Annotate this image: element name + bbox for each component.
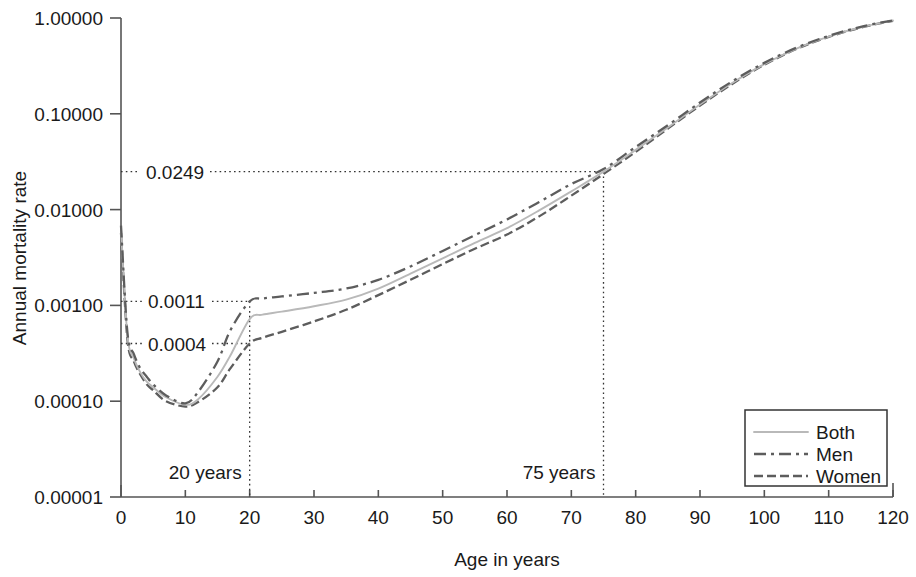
annotation-value-label: 0.0011 [148,291,205,312]
x-axis-tick-labels: 0102030405060708090100110120 [116,507,909,528]
x-tick-label: 100 [748,507,780,528]
y-tick-label: 0.00001 [34,487,103,508]
legend-label-women: Women [816,466,881,487]
y-tick-label: 0.10000 [34,104,103,125]
annotation-value-label: 0.0249 [146,162,204,183]
y-tick-label: 0.00100 [34,295,103,316]
legend-label-both: Both [816,422,855,443]
x-tick-label: 40 [368,507,389,528]
legend-label-men: Men [816,444,853,465]
x-tick-label: 0 [116,507,127,528]
x-tick-label: 20 [239,507,260,528]
series-line-both [121,21,893,405]
y-tick-label: 0.00010 [34,391,103,412]
chart-canvas: 1.000000.100000.010000.001000.000100.000… [0,0,916,577]
annotation-value-label: 0.0004 [148,334,207,355]
x-tick-label: 30 [303,507,324,528]
x-axis-title: Age in years [454,549,560,570]
y-axis-title: Annual mortality rate [9,171,30,345]
y-axis-tick-labels: 1.000000.100000.010000.001000.000100.000… [34,8,103,508]
annotation-age-label: 75 years [523,462,596,483]
x-tick-label: 80 [625,507,646,528]
x-tick-label: 90 [689,507,710,528]
x-axis: 0102030405060708090100110120 Age in year… [116,483,909,570]
series-line-women [121,21,893,407]
x-axis-ticks [121,485,893,497]
x-tick-label: 50 [432,507,453,528]
y-axis: 1.000000.100000.010000.001000.000100.000… [9,8,121,508]
y-tick-label: 1.00000 [34,8,103,29]
series-lines [121,20,893,406]
y-tick-label: 0.01000 [34,200,103,221]
mortality-rate-chart: 1.000000.100000.010000.001000.000100.000… [0,0,916,577]
y-axis-ticks [110,18,121,497]
annotation-labels: 0.02490.00110.000420 years75 years [146,162,596,483]
annotation-age-label: 20 years [169,462,242,483]
x-tick-label: 120 [877,507,909,528]
x-tick-label: 10 [175,507,196,528]
legend: BothMenWomen [745,410,887,487]
series-line-men [121,20,893,403]
x-tick-label: 60 [496,507,517,528]
x-tick-label: 110 [814,507,844,528]
x-tick-label: 70 [561,507,582,528]
